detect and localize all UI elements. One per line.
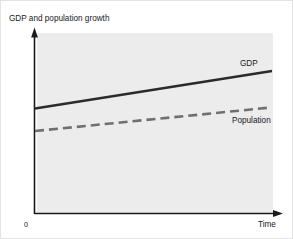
- gdp-population-growth-chart: GDP and population growth Time 0 GDP Pop…: [1, 1, 293, 239]
- origin-label: 0: [24, 220, 28, 229]
- series-label-gdp: GDP: [240, 59, 258, 68]
- x-axis-title: Time: [258, 220, 276, 229]
- y-axis-title: GDP and population growth: [9, 14, 110, 23]
- y-axis: [31, 28, 38, 215]
- chart-figure: GDP and population growth Time 0 GDP Pop…: [0, 0, 293, 239]
- x-axis-arrow-icon: [273, 210, 283, 217]
- y-axis-arrow-icon: [31, 28, 38, 38]
- series-label-population: Population: [232, 116, 271, 125]
